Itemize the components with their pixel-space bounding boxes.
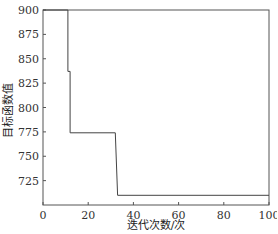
objective-line <box>43 10 269 195</box>
y-tick-label: 800 <box>18 102 39 115</box>
y-axis-ticks: 725750775800825850875900 <box>18 4 46 188</box>
y-tick-label: 775 <box>18 126 39 139</box>
x-tick-label: 100 <box>259 209 278 222</box>
y-tick-label: 850 <box>18 53 39 66</box>
y-tick-label: 875 <box>18 28 39 41</box>
x-tick-label: 20 <box>81 209 95 222</box>
y-tick-label: 725 <box>18 175 39 188</box>
y-tick-label: 750 <box>18 150 39 163</box>
x-axis-label: 迭代次数/次 <box>127 218 186 232</box>
plot-frame <box>43 10 269 205</box>
y-tick-label: 825 <box>18 77 39 90</box>
x-tick-label: 80 <box>217 209 231 222</box>
chart: 725750775800825850875900 020406080100 迭代… <box>0 0 277 234</box>
y-tick-label: 900 <box>18 4 39 17</box>
x-tick-label: 0 <box>40 209 47 222</box>
y-axis-label: 目标函数值 <box>1 83 15 138</box>
